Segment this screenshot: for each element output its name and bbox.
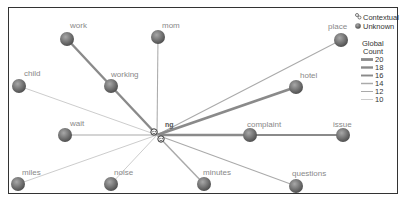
edge-hub-questions — [157, 135, 296, 186]
unknown-node-icon — [104, 177, 118, 191]
node-label: questions — [292, 169, 326, 178]
legend-contextual: Contextual — [356, 13, 400, 22]
node-place[interactable]: place — [328, 22, 348, 47]
node-label: place — [328, 22, 348, 31]
unknown-node-icon — [289, 80, 303, 94]
node-noise[interactable]: noise — [104, 168, 134, 191]
legend-unknown: Unknown — [355, 22, 394, 31]
node-work[interactable]: work — [60, 21, 88, 46]
node-label: wait — [69, 119, 85, 128]
node-label: minutes — [203, 168, 231, 177]
node-issue[interactable]: issue — [333, 120, 352, 142]
unknown-node-icon — [334, 33, 348, 47]
unknown-node-icon — [355, 23, 361, 29]
node-label: noise — [114, 168, 134, 177]
unknown-node-icon — [243, 128, 257, 142]
hub-label: ng — [165, 121, 174, 129]
edges-layer — [18, 37, 343, 186]
unknown-node-icon — [58, 128, 72, 142]
node-child[interactable]: child — [12, 69, 40, 93]
node-hotel[interactable]: hotel — [289, 71, 318, 94]
contextual-icon — [356, 14, 362, 20]
unknown-node-icon — [104, 79, 118, 93]
legend-count-label: 10 — [375, 95, 383, 104]
unknown-node-icon — [151, 30, 165, 44]
node-minutes[interactable]: minutes — [197, 168, 231, 191]
contextual-icon — [151, 129, 157, 135]
unknown-node-icon — [12, 79, 26, 93]
edge-hub-mom — [157, 37, 158, 135]
legend-unknown-label: Unknown — [363, 22, 394, 31]
network-graph: workmomplacechildworkinghotelwaitcomplai… — [0, 0, 407, 204]
unknown-node-icon — [11, 177, 25, 191]
node-mom[interactable]: mom — [151, 21, 180, 44]
node-label: hotel — [300, 71, 318, 80]
node-miles[interactable]: miles — [11, 168, 41, 191]
nodes-layer: workmomplacechildworkinghotelwaitcomplai… — [11, 21, 352, 193]
node-working[interactable]: working — [104, 70, 139, 93]
node-label: miles — [22, 168, 41, 177]
legend-counts: 201816141210 — [361, 55, 383, 104]
edge-hub-work — [111, 86, 157, 135]
edge-hub-work — [67, 39, 111, 86]
node-label: mom — [162, 21, 180, 30]
contextual-icon — [158, 136, 164, 142]
unknown-node-icon — [60, 32, 74, 46]
node-label: working — [110, 70, 139, 79]
legend: Contextual Unknown Global Count 20181614… — [355, 13, 399, 104]
node-label: work — [69, 21, 88, 30]
node-complaint[interactable]: complaint — [243, 120, 282, 142]
node-label: complaint — [247, 120, 282, 129]
legend-contextual-label: Contextual — [363, 13, 399, 22]
unknown-node-icon — [289, 179, 303, 193]
edge-hub-minutes — [157, 135, 204, 184]
unknown-node-icon — [336, 128, 350, 142]
node-wait[interactable]: wait — [58, 119, 85, 142]
edge-hub-child — [19, 86, 157, 135]
unknown-node-icon — [197, 177, 211, 191]
node-questions[interactable]: questions — [289, 169, 326, 193]
node-label: issue — [333, 120, 352, 129]
node-label: child — [24, 69, 40, 78]
